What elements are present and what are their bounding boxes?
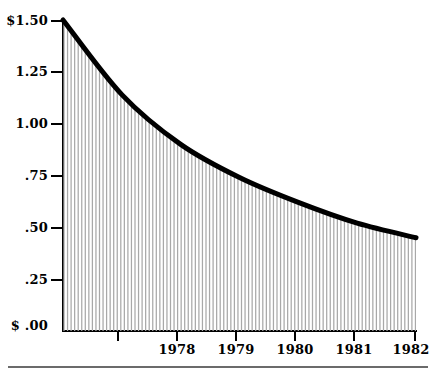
y-tick-label-100: 1.00 xyxy=(16,116,48,131)
y-tick-label-000: $ .00 xyxy=(11,318,48,333)
x-tick-label-1981: 1981 xyxy=(336,342,373,357)
y-tick-mark xyxy=(51,227,62,229)
y-tick-mark xyxy=(51,175,62,177)
y-tick-mark xyxy=(51,279,62,281)
y-axis-labels: $1.50 1.25 1.00 .75 .50 .25 $ .00 xyxy=(0,0,48,376)
x-tick-mark xyxy=(117,332,119,341)
y-tick-mark xyxy=(51,71,62,73)
x-tick-label-1979: 1979 xyxy=(218,342,255,357)
x-tick-label-1982: 1982 xyxy=(393,342,430,357)
x-tick-mark xyxy=(353,332,355,341)
plot-area xyxy=(63,20,416,331)
x-tick-label-1978: 1978 xyxy=(159,342,196,357)
y-tick-mark xyxy=(51,123,62,125)
x-tick-mark xyxy=(294,332,296,341)
bottom-divider xyxy=(8,366,428,368)
y-tick-label-075: .75 xyxy=(25,168,48,183)
curve-stroke xyxy=(63,20,416,238)
y-tick-label-050: .50 xyxy=(25,220,48,235)
x-tick-mark xyxy=(414,332,416,341)
x-tick-mark xyxy=(235,332,237,341)
x-tick-mark xyxy=(176,332,178,341)
data-curve xyxy=(63,20,416,331)
chart-figure: $1.50 1.25 1.00 .75 .50 .25 $ .00 1978 1… xyxy=(0,0,436,376)
y-tick-label-150: $1.50 xyxy=(6,13,48,28)
x-tick-label-1980: 1980 xyxy=(277,342,314,357)
y-tick-label-125: 1.25 xyxy=(16,64,48,79)
y-tick-mark xyxy=(51,20,62,22)
y-tick-label-025: .25 xyxy=(25,272,48,287)
